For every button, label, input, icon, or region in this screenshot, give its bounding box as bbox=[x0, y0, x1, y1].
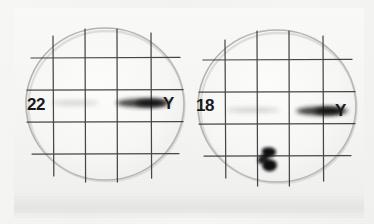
plate-left-faint-band bbox=[51, 101, 99, 105]
plate-left[interactable]: 22 Y bbox=[0, 0, 200, 224]
plate-right-axis-label: Y bbox=[335, 102, 346, 119]
plate-left-axis-label: Y bbox=[163, 95, 174, 112]
plate-right-faint-band bbox=[226, 108, 280, 112]
plate-right-sample-label: 18 bbox=[196, 97, 214, 114]
plate-left-sample-label: 22 bbox=[27, 96, 45, 113]
plate-left-band-core bbox=[136, 100, 166, 107]
plate-right-disc bbox=[198, 30, 357, 183]
figure-root: 22 Y bbox=[0, 0, 374, 224]
plate-right[interactable]: 18 Y bbox=[174, 0, 374, 224]
